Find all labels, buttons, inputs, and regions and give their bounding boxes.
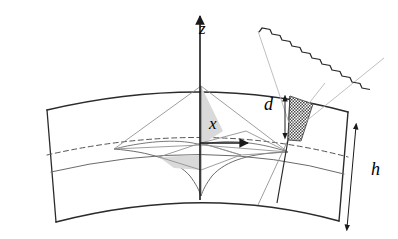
band-inner-arc <box>56 203 339 222</box>
h-dimension-arrow <box>347 126 356 228</box>
magnified-edge-inset <box>259 28 370 90</box>
z-axis-label: z <box>199 20 206 37</box>
band-right-edge <box>339 112 348 221</box>
crenellation-profile <box>259 28 370 90</box>
leader-line-left <box>258 31 289 123</box>
figure-canvas: z x d h <box>0 0 398 239</box>
x-axis-label: x <box>209 115 217 132</box>
magnifier-leader-lines <box>258 31 384 126</box>
cusp-right-profile <box>201 152 288 196</box>
leader-line-right <box>305 58 384 122</box>
band-left-edge <box>47 110 56 222</box>
gap-thickness-label: d <box>264 95 273 113</box>
band-height-label: h <box>371 160 380 178</box>
